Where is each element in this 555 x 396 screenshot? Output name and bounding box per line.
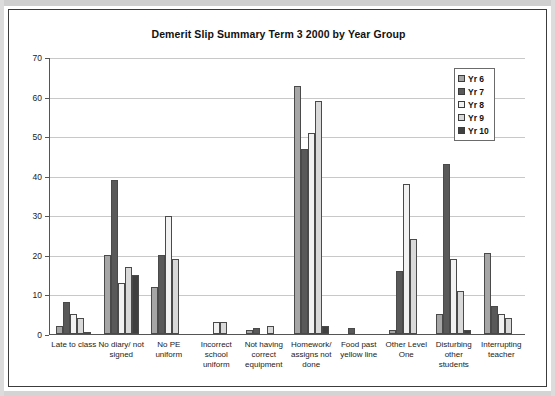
chart-title: Demerit Slip Summary Term 3 2000 by Year… [9, 28, 548, 40]
bar-yr-10 [322, 326, 329, 334]
bar-yr-7 [301, 149, 308, 334]
y-axis-tick-label: 40 [33, 172, 42, 182]
legend-swatch-icon [458, 101, 465, 108]
legend-item-label: Yr 9 [468, 113, 484, 123]
x-axis-line [49, 334, 525, 335]
bar-yr-10 [84, 332, 91, 334]
bar-yr-6 [436, 314, 443, 334]
bar-yr-9 [410, 239, 417, 334]
y-axis-tick [45, 335, 49, 336]
legend-item[interactable]: Yr 10 [458, 124, 489, 137]
y-axis-tick-label: 60 [33, 93, 42, 103]
x-axis-category-label: Not having correct equipment [240, 340, 288, 370]
y-axis-tick-label: 70 [33, 53, 42, 63]
bar-yr-6 [246, 330, 253, 334]
bar-yr-6 [484, 253, 491, 334]
legend-item[interactable]: Yr 8 [458, 98, 489, 111]
bar-yr-6 [104, 255, 111, 334]
bar-yr-6 [294, 86, 301, 334]
bar-yr-7 [491, 306, 498, 334]
legend-item[interactable]: Yr 7 [458, 85, 489, 98]
bar-yr-7 [253, 328, 260, 334]
bar-yr-9 [125, 267, 132, 334]
legend-swatch-icon [458, 127, 465, 134]
bar-yr-8 [213, 322, 220, 334]
bar-yr-9 [505, 318, 512, 334]
chart-frame: Demerit Slip Summary Term 3 2000 by Year… [8, 9, 547, 387]
bar-yr-7 [443, 164, 450, 334]
y-axis-tick-label: 50 [33, 132, 42, 142]
chart-page: Demerit Slip Summary Term 3 2000 by Year… [0, 0, 555, 396]
legend-item-label: Yr 10 [468, 126, 489, 136]
bar-yr-9 [77, 318, 84, 334]
bar-group [335, 58, 383, 334]
bar-yr-7 [63, 302, 70, 334]
bar-yr-8 [118, 283, 125, 334]
bar-yr-6 [151, 287, 158, 334]
legend-swatch-icon [458, 75, 465, 82]
x-axis-category-label: Interrupting teacher [478, 340, 526, 370]
bar-yr-6 [56, 326, 63, 334]
bar-yr-8 [165, 216, 172, 334]
bar-yr-7 [158, 255, 165, 334]
scan-artifact-top [0, 0, 555, 6]
bar-yr-10 [132, 275, 139, 334]
x-axis-category-label: Late to class [50, 340, 98, 370]
bar-yr-7 [396, 271, 403, 334]
bar-group [50, 58, 98, 334]
scan-artifact-right [551, 0, 555, 396]
legend-swatch-icon [458, 114, 465, 121]
bar-yr-8 [403, 184, 410, 334]
bar-yr-6 [389, 330, 396, 334]
bar-group [98, 58, 146, 334]
x-axis-categories: Late to classNo diary/ not signedNo PE u… [50, 340, 525, 370]
bar-group [288, 58, 336, 334]
chart-legend: Yr 6Yr 7Yr 8Yr 9Yr 10 [454, 68, 495, 141]
y-axis-tick-label: 10 [33, 290, 42, 300]
bar-yr-9 [315, 101, 322, 334]
scan-artifact-bottom [0, 391, 555, 396]
bar-group [193, 58, 241, 334]
legend-item[interactable]: Yr 9 [458, 111, 489, 124]
y-axis-tick-label: 30 [33, 211, 42, 221]
bar-yr-9 [267, 326, 274, 334]
x-axis-category-label: Other Level One [383, 340, 431, 370]
x-axis-category-label: Homework/ assigns not done [288, 340, 336, 370]
y-axis-tick-label: 0 [37, 330, 42, 340]
legend-item-label: Yr 7 [468, 87, 484, 97]
scan-artifact-left [0, 0, 4, 396]
bar-yr-8 [498, 314, 505, 334]
legend-swatch-icon [458, 88, 465, 95]
bar-yr-8 [70, 314, 77, 334]
x-axis-category-label: Disturbing other students [430, 340, 478, 370]
bar-yr-7 [348, 328, 355, 334]
bar-group [145, 58, 193, 334]
x-axis-category-label: No PE uniform [145, 340, 193, 370]
bar-yr-9 [457, 291, 464, 334]
bar-group [240, 58, 288, 334]
x-axis-category-label: Food past yellow line [335, 340, 383, 370]
bar-yr-9 [172, 259, 179, 334]
x-axis-category-label: Incorrect school uniform [193, 340, 241, 370]
bar-yr-10 [464, 330, 471, 334]
x-axis-category-label: No diary/ not signed [98, 340, 146, 370]
bar-yr-8 [308, 133, 315, 334]
y-axis-tick-label: 20 [33, 251, 42, 261]
legend-item[interactable]: Yr 6 [458, 72, 489, 85]
bar-group [383, 58, 431, 334]
legend-item-label: Yr 8 [468, 100, 484, 110]
bar-yr-8 [450, 259, 457, 334]
bar-yr-7 [111, 180, 118, 334]
bar-yr-9 [220, 322, 227, 334]
legend-item-label: Yr 6 [468, 74, 484, 84]
